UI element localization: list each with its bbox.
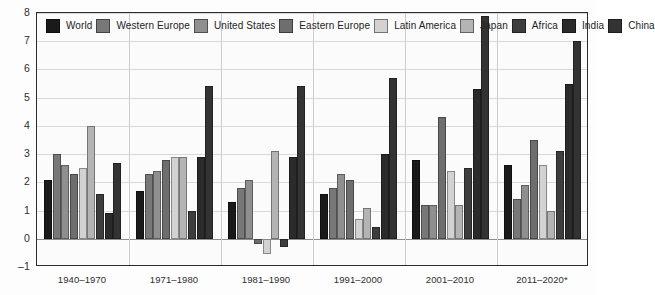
bar [421, 205, 429, 239]
bar [429, 205, 437, 239]
group-separator [405, 13, 406, 265]
y-tick-label: 5 [24, 91, 30, 103]
bar [136, 191, 144, 239]
legend-item-eastern-europe[interactable]: Eastern Europe [279, 16, 370, 35]
bar [337, 174, 345, 239]
bar [179, 157, 187, 239]
legend-label: World [66, 20, 92, 31]
x-tick-label: 1991–2000 [334, 274, 382, 285]
legend-label: Japan [480, 20, 508, 31]
bar [521, 185, 529, 239]
bar [573, 41, 581, 239]
bar [481, 16, 489, 239]
bar [447, 171, 455, 239]
x-tick-label: 2011–2020* [516, 274, 568, 285]
x-tick-label: 1971–1980 [150, 274, 198, 285]
legend-swatch-china-icon [608, 19, 622, 33]
legend-swatch-latin-america-icon [374, 19, 388, 33]
group-separator [313, 13, 314, 265]
bar [61, 165, 69, 238]
bar [565, 84, 573, 239]
bar [530, 140, 538, 239]
bar [87, 126, 95, 239]
y-tick-label: 7 [24, 34, 30, 46]
y-axis: –1012345678 [0, 0, 36, 295]
gridline-3 [37, 154, 587, 155]
legend-swatch-africa-icon [512, 19, 526, 33]
bar [79, 168, 87, 239]
x-tick-label: 1940–1970 [58, 274, 106, 285]
bar [271, 151, 279, 238]
bar [513, 199, 521, 239]
legend-label: Western Europe [116, 20, 189, 31]
bar [320, 194, 328, 239]
bar [280, 239, 288, 247]
group-separator [221, 13, 222, 265]
bar [237, 188, 245, 239]
group-separator [497, 13, 498, 265]
bar [197, 157, 205, 239]
bar [171, 157, 179, 239]
bar [363, 208, 371, 239]
bar [96, 194, 104, 239]
legend-item-india[interactable]: India [562, 16, 604, 35]
y-tick-label: 1 [24, 204, 30, 216]
legend-swatch-japan-icon [460, 19, 474, 33]
y-tick-label: 8 [24, 6, 30, 18]
group-separator [129, 13, 130, 265]
gridline-6 [37, 69, 587, 70]
bar [412, 160, 420, 239]
legend-item-united-states[interactable]: United States [194, 16, 275, 35]
bar [145, 174, 153, 239]
legend-swatch-world-icon [46, 19, 60, 33]
plot-area [36, 12, 588, 266]
gridline-4 [37, 126, 587, 127]
bar [473, 89, 481, 239]
legend-label: India [582, 20, 604, 31]
legend-label: China [628, 20, 655, 31]
legend-item-latin-america[interactable]: Latin America [374, 16, 456, 35]
bar [70, 174, 78, 239]
bar [355, 219, 363, 239]
bar [297, 86, 305, 238]
y-tick-label: –1 [18, 260, 30, 272]
bar [254, 239, 262, 245]
y-tick-label: 0 [24, 232, 30, 244]
bar [464, 168, 472, 239]
bar [53, 154, 61, 239]
legend-swatch-eastern-europe-icon [279, 19, 293, 33]
gridline-0 [37, 239, 587, 240]
bar [188, 211, 196, 239]
x-tick-label: 1981–1990 [242, 274, 290, 285]
legend-label: United States [214, 20, 275, 31]
y-tick-label: 4 [24, 119, 30, 131]
bar [547, 211, 555, 239]
legend-swatch-western-europe-icon [96, 19, 110, 33]
bar [372, 227, 380, 238]
legend-item-world[interactable]: World [46, 16, 92, 35]
gridline-7 [37, 41, 587, 42]
y-tick-label: 6 [24, 62, 30, 74]
legend-swatch-india-icon [562, 19, 576, 33]
bar [539, 165, 547, 238]
legend-label: Latin America [394, 20, 456, 31]
legend-item-western-europe[interactable]: Western Europe [96, 16, 189, 35]
bar [162, 160, 170, 239]
legend-item-japan[interactable]: Japan [460, 16, 508, 35]
bar [438, 117, 446, 238]
bar [113, 163, 121, 239]
legend-item-africa[interactable]: Africa [512, 16, 558, 35]
legend-label: Africa [532, 20, 558, 31]
legend-swatch-united-states-icon [194, 19, 208, 33]
bar [329, 188, 337, 239]
bar [389, 78, 397, 239]
bar [105, 213, 113, 238]
bar [289, 157, 297, 239]
y-tick-label: 2 [24, 175, 30, 187]
x-axis: 1940–19701971–19801981–19901991–20002001… [36, 268, 588, 295]
legend-item-china[interactable]: China [608, 16, 655, 35]
legend-label: Eastern Europe [299, 20, 370, 31]
bar [228, 202, 236, 239]
bar [263, 239, 271, 255]
